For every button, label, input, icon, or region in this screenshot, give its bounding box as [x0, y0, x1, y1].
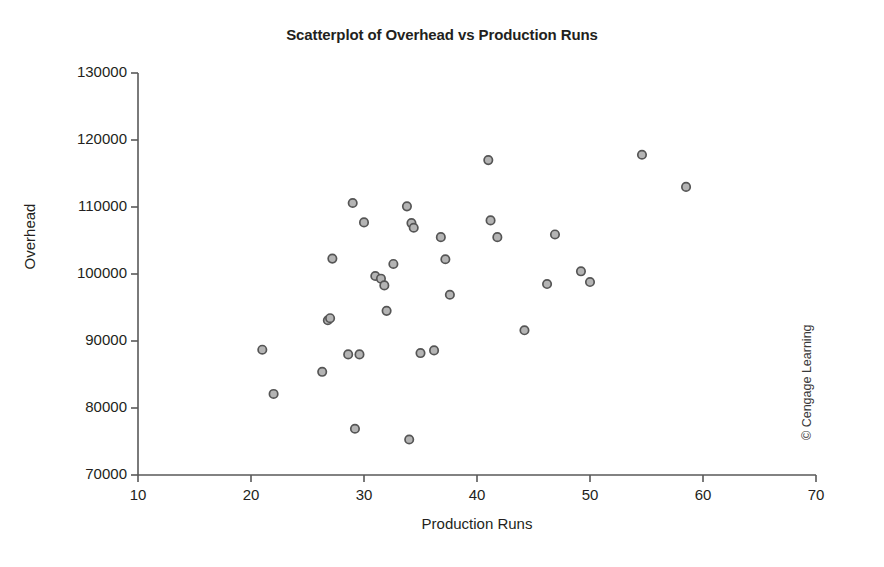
y-tick-label: 130000: [35, 63, 127, 80]
scatter-point: [430, 346, 438, 354]
scatter-point: [577, 267, 585, 275]
scatter-point: [484, 156, 492, 164]
x-tick-label: 20: [221, 486, 281, 503]
y-tick-label: 110000: [35, 197, 127, 214]
x-tick-label: 70: [786, 486, 846, 503]
x-tick-label: 40: [447, 486, 507, 503]
scatter-point: [543, 280, 551, 288]
scatter-point: [403, 202, 411, 210]
scatter-point: [520, 326, 528, 334]
scatter-point: [349, 199, 357, 207]
scatter-point: [360, 218, 368, 226]
y-tick-label: 70000: [35, 465, 127, 482]
axis-ticks: [131, 73, 816, 482]
scatter-point: [493, 233, 501, 241]
x-tick-label: 60: [673, 486, 733, 503]
scatter-point: [328, 254, 336, 262]
y-tick-label: 80000: [35, 398, 127, 415]
data-points: [258, 151, 690, 444]
scatter-point: [551, 230, 559, 238]
scatter-point: [351, 425, 359, 433]
scatter-point: [486, 216, 494, 224]
x-tick-label: 50: [560, 486, 620, 503]
scatterplot-figure: Scatterplot of Overhead vs Production Ru…: [0, 0, 884, 567]
plot-area: [0, 0, 884, 567]
scatter-point: [441, 255, 449, 263]
x-tick-label: 10: [108, 486, 168, 503]
scatter-point: [416, 349, 424, 357]
scatter-point: [380, 281, 388, 289]
scatter-point: [437, 233, 445, 241]
scatter-point: [586, 278, 594, 286]
y-tick-label: 100000: [35, 264, 127, 281]
scatter-point: [446, 291, 454, 299]
scatter-point: [389, 260, 397, 268]
scatter-point: [258, 346, 266, 354]
y-tick-label: 120000: [35, 130, 127, 147]
scatter-point: [382, 307, 390, 315]
y-tick-label: 90000: [35, 331, 127, 348]
scatter-point: [405, 435, 413, 443]
x-tick-label: 30: [334, 486, 394, 503]
scatter-point: [638, 151, 646, 159]
scatter-point: [269, 390, 277, 398]
scatter-point: [355, 350, 363, 358]
axes: [138, 73, 816, 475]
scatter-point: [344, 350, 352, 358]
scatter-point: [410, 224, 418, 232]
scatter-point: [318, 368, 326, 376]
scatter-point: [682, 183, 690, 191]
scatter-point: [326, 314, 334, 322]
